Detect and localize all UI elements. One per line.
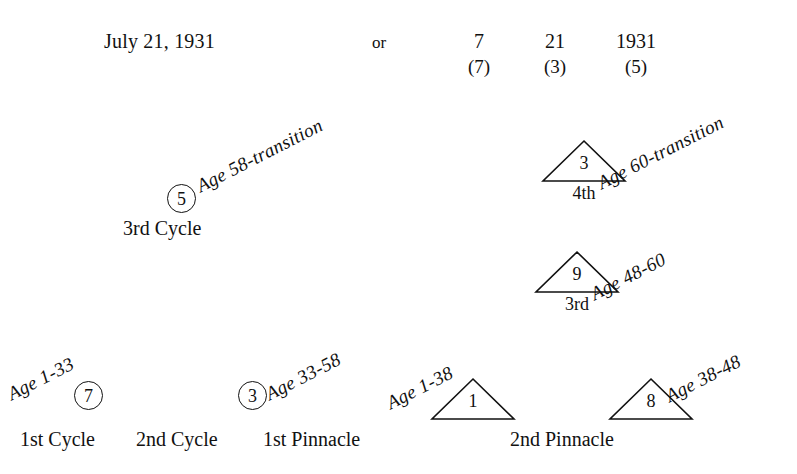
pinnacle-3-sub-caption: 3rd bbox=[533, 294, 621, 315]
pinnacle-2-triangle: 8 bbox=[607, 376, 695, 422]
cycle-2-number: 3 bbox=[238, 381, 267, 410]
pinnacle-1-triangle: 1 bbox=[429, 376, 517, 422]
pinnacle-3-number: 9 bbox=[533, 265, 621, 283]
header-connector-text: or bbox=[372, 33, 386, 53]
birth-day-reduced: (3) bbox=[531, 56, 579, 78]
birth-date-text: July 21, 1931 bbox=[104, 30, 215, 53]
birth-year-reduced: (5) bbox=[604, 56, 668, 78]
pinnacle-2-number: 8 bbox=[607, 392, 695, 410]
numerology-cycles-pinnacles-diagram: July 21, 1931 or 7 21 1931 (7) (3) (5) A… bbox=[0, 0, 797, 474]
pinnacle-3-triangle: 9 bbox=[533, 249, 621, 295]
pinnacle-1-caption: 1st Pinnacle bbox=[263, 428, 360, 451]
cycle-2-age-label: Age 33-58 bbox=[262, 348, 344, 405]
cycle-3-number: 5 bbox=[167, 184, 196, 213]
cycle-2-caption: 2nd Cycle bbox=[136, 428, 218, 451]
cycle-1-caption: 1st Cycle bbox=[20, 428, 95, 451]
birth-year-value: 1931 bbox=[604, 30, 668, 53]
pinnacle-4-number: 3 bbox=[540, 154, 628, 172]
pinnacle-4-triangle: 3 bbox=[540, 138, 628, 184]
cycle-1-number: 7 bbox=[74, 381, 103, 410]
cycle-3-age-label: Age 58-transition bbox=[193, 114, 327, 197]
birth-month-reduced: (7) bbox=[455, 56, 503, 78]
cycle-1-age-label: Age 1-33 bbox=[4, 353, 78, 405]
birth-month-value: 7 bbox=[455, 30, 503, 53]
pinnacle-4-sub-caption: 4th bbox=[540, 183, 628, 204]
birth-day-value: 21 bbox=[531, 30, 579, 53]
pinnacle-1-number: 1 bbox=[429, 392, 517, 410]
cycle-3-caption: 3rd Cycle bbox=[123, 217, 201, 240]
pinnacle-2-caption: 2nd Pinnacle bbox=[510, 428, 614, 451]
